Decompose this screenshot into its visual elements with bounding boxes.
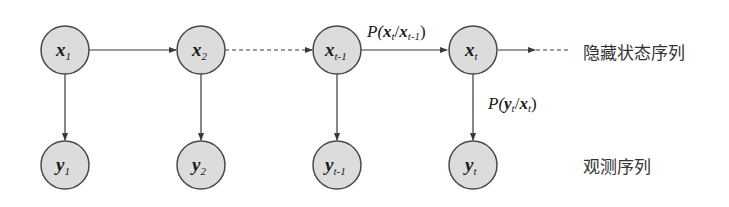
hidden-node-x2: x2 [177,26,225,74]
observed-node-yt: yt [449,141,497,189]
hidden-node-xt-1: xt-1 [313,26,361,74]
observed-sequence-label: 观测序列 [583,153,651,178]
emission-probability-label: P(yt/xt) [487,94,537,114]
hidden-node-xt: xt [449,26,497,74]
observed-node-y2: y2 [177,141,225,189]
observed-node-y1: y1 [41,141,89,189]
hidden-node-x1: x1 [41,26,89,74]
hidden-sequence-label: 隐藏状态序列 [583,39,685,64]
observed-node-yt-1: yt-1 [313,141,361,189]
transition-probability-label: P(xt/xt-1) [366,22,426,42]
hmm-diagram: x1 x2 xt-1 xt y1 y2 yt-1 yt [0,0,729,207]
